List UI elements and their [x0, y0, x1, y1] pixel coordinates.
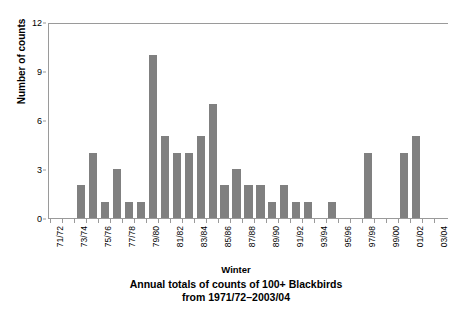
bar-slot: [422, 24, 434, 218]
bar[interactable]: [113, 169, 121, 218]
x-label-slot: [110, 226, 122, 262]
x-tick-mark: [338, 219, 339, 223]
x-label-slot: [278, 226, 290, 262]
y-tick-label: 9: [37, 68, 42, 77]
x-tick-mark: [326, 219, 327, 223]
x-label-slot: 95/96: [338, 226, 350, 262]
x-tick-slot: [206, 219, 218, 224]
x-tick-slot: [326, 219, 338, 224]
x-tick-slot: [254, 219, 266, 224]
bar-slot: [75, 24, 87, 218]
bar-slot: [207, 24, 219, 218]
x-tick-mark: [194, 219, 195, 223]
x-tick-label: 03/04: [440, 226, 449, 247]
x-label-slot: [182, 226, 194, 262]
bar-slot: [434, 24, 446, 218]
x-tick-mark: [218, 219, 219, 223]
x-label-slot: [230, 226, 242, 262]
x-tick-slot: [302, 219, 314, 224]
bar[interactable]: [280, 185, 288, 218]
bar-slot: [159, 24, 171, 218]
x-label-slot: 81/82: [170, 226, 182, 262]
x-tick-mark: [386, 219, 387, 223]
x-label-slot: [326, 226, 338, 262]
x-tick-slot: [122, 219, 134, 224]
y-tick-label: 12: [32, 19, 42, 28]
x-tick-mark: [158, 219, 159, 223]
x-label-slot: [206, 226, 218, 262]
x-label-slot: [374, 226, 386, 262]
bar-slot: [195, 24, 207, 218]
x-tick-mark: [206, 219, 207, 223]
bar-slot: [231, 24, 243, 218]
x-tick-slot: [278, 219, 290, 224]
x-tick-mark: [146, 219, 147, 223]
x-tick-mark: [362, 219, 363, 223]
y-tick-mark: [43, 219, 46, 220]
bar[interactable]: [328, 202, 336, 218]
bar[interactable]: [412, 136, 420, 218]
x-label-slot: 91/92: [290, 226, 302, 262]
x-tick-slot: [182, 219, 194, 224]
x-tick-mark: [86, 219, 87, 223]
x-axis-title: Winter: [0, 264, 472, 275]
bar[interactable]: [304, 202, 312, 218]
x-tick-slot: [170, 219, 182, 224]
bar[interactable]: [292, 202, 300, 218]
x-tick-mark: [110, 219, 111, 223]
x-label-slot: [134, 226, 146, 262]
bar[interactable]: [256, 185, 264, 218]
bar[interactable]: [220, 185, 228, 218]
bar-slot: [183, 24, 195, 218]
bar[interactable]: [268, 202, 276, 218]
bar[interactable]: [400, 153, 408, 218]
x-axis-labels: 71/7273/7475/7677/7879/8081/8283/8485/86…: [48, 226, 448, 262]
bar-slot: [278, 24, 290, 218]
x-label-slot: 79/80: [146, 226, 158, 262]
bar[interactable]: [232, 169, 240, 218]
x-label-slot: 75/76: [98, 226, 110, 262]
bar[interactable]: [125, 202, 133, 218]
x-tick-slot: [386, 219, 398, 224]
bar-slot: [350, 24, 362, 218]
x-label-slot: 03/04: [434, 226, 446, 262]
bar-slot: [338, 24, 350, 218]
bar[interactable]: [77, 185, 85, 218]
x-label-slot: 99/00: [386, 226, 398, 262]
bar-slot: [219, 24, 231, 218]
x-tick-slot: [410, 219, 422, 224]
bar[interactable]: [137, 202, 145, 218]
x-tick-mark: [398, 219, 399, 223]
x-label-slot: [254, 226, 266, 262]
caption-line-1: Annual totals of counts of 100+ Blackbir…: [0, 278, 472, 291]
bar-slot: [398, 24, 410, 218]
bar[interactable]: [89, 153, 97, 218]
x-tick-mark: [374, 219, 375, 223]
bar[interactable]: [364, 153, 372, 218]
bar[interactable]: [161, 136, 169, 218]
bar-slot: [99, 24, 111, 218]
bar[interactable]: [149, 55, 157, 218]
bar-slot: [410, 24, 422, 218]
bar-slot: [243, 24, 255, 218]
y-tick-mark: [43, 72, 46, 73]
x-tick-mark: [350, 219, 351, 223]
x-label-slot: [302, 226, 314, 262]
x-tick-slot: [146, 219, 158, 224]
y-tick-label: 0: [37, 215, 42, 224]
x-label-slot: [422, 226, 434, 262]
bar-series: [49, 24, 448, 218]
bar[interactable]: [244, 185, 252, 218]
x-tick-slot: [338, 219, 350, 224]
x-tick-mark: [98, 219, 99, 223]
bar[interactable]: [173, 153, 181, 218]
bar[interactable]: [185, 153, 193, 218]
x-tick-mark: [74, 219, 75, 223]
x-tick-slot: [230, 219, 242, 224]
x-tick-slot: [422, 219, 434, 224]
x-label-slot: [62, 226, 74, 262]
bar[interactable]: [101, 202, 109, 218]
bar[interactable]: [209, 104, 217, 218]
bar[interactable]: [197, 136, 205, 218]
y-tick-mark: [43, 121, 46, 122]
